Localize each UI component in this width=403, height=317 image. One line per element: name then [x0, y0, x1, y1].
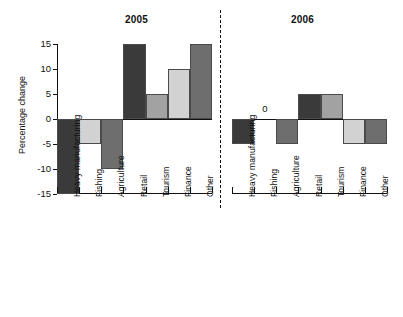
x-tick-mark [276, 187, 277, 193]
x-category-label: Heavy manufacturing [247, 115, 257, 197]
x-tick-mark [321, 187, 322, 193]
bar [190, 44, 212, 119]
bar [365, 119, 387, 144]
y-tick-label: 5 [18, 88, 51, 99]
x-category-label: Fishing [269, 169, 279, 197]
y-tick-label: -10 [18, 163, 51, 174]
x-tick-mark [232, 187, 233, 193]
y-tick-mark [53, 69, 57, 70]
x-category-label: Retail [314, 175, 324, 197]
x-category-label: Heavy manufacturing [72, 115, 82, 197]
x-tick-mark [365, 187, 366, 193]
bar-value-label: 0 [262, 103, 267, 114]
bar [146, 94, 168, 119]
x-tick-mark [298, 187, 299, 193]
x-tick-mark [254, 187, 255, 193]
x-category-label: Retail [139, 175, 149, 197]
x-category-label: Other [380, 175, 390, 197]
bar [321, 94, 343, 119]
y-tick-label: 10 [18, 63, 51, 74]
y-tick-mark [53, 44, 57, 45]
x-tick-mark [101, 187, 102, 193]
bar [276, 119, 298, 144]
x-tick-mark [57, 187, 58, 193]
x-tick-mark [123, 187, 124, 193]
panel-divider [220, 10, 221, 208]
x-category-label: Other [205, 175, 215, 197]
y-tick-mark [53, 94, 57, 95]
y-tick-label: 15 [18, 38, 51, 49]
x-category-label: Finance [358, 166, 368, 197]
y-tick-mark [53, 194, 57, 195]
x-category-label: Finance [183, 166, 193, 197]
bar [79, 119, 101, 144]
x-category-label: Tourism [336, 167, 346, 197]
y-tick-label: -5 [18, 138, 51, 149]
bar [343, 119, 365, 144]
x-category-label: Tourism [161, 167, 171, 197]
x-category-label: Fishing [94, 169, 104, 197]
x-category-label: Agriculture [116, 155, 126, 197]
bar-chart: 2005 2006 Percentage change 151050-5-10-… [0, 0, 403, 317]
x-tick-mark [79, 187, 80, 193]
y-tick-label: -15 [18, 188, 51, 199]
x-tick-mark [146, 187, 147, 193]
x-category-label: Agriculture [291, 155, 301, 197]
x-tick-mark [212, 187, 213, 193]
bar [298, 94, 320, 119]
x-tick-mark [168, 187, 169, 193]
x-tick-mark [190, 187, 191, 193]
panel-title-2005: 2005 [125, 14, 148, 25]
panel-title-2006: 2006 [291, 14, 314, 25]
x-tick-mark [387, 187, 388, 193]
bar [123, 44, 145, 119]
x-tick-mark [343, 187, 344, 193]
bar [168, 69, 190, 119]
y-tick-label: 0 [18, 113, 51, 124]
